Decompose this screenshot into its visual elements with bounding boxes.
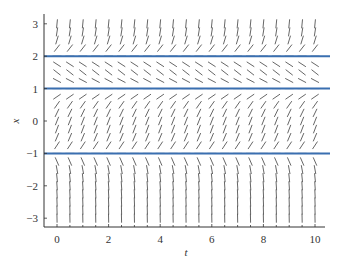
- slope-segment: [301, 36, 304, 45]
- slope-segment: [170, 70, 177, 76]
- slope-segment: [172, 27, 173, 36]
- slope-segment: [95, 27, 96, 36]
- slope-segment: [248, 101, 253, 108]
- slope-segment: [106, 142, 111, 150]
- slope-segment: [195, 62, 203, 67]
- slope-segment: [211, 27, 212, 36]
- slope-segment: [234, 62, 242, 67]
- slope-segment: [235, 101, 240, 108]
- slope-segment: [248, 45, 254, 52]
- slope-segment: [133, 133, 137, 141]
- slope-segment: [146, 157, 150, 165]
- slope-segment: [261, 45, 267, 52]
- slope-segment: [263, 27, 264, 36]
- slope-segment: [95, 181, 96, 190]
- slope-segment: [147, 181, 148, 190]
- slope-segment: [314, 165, 316, 174]
- slope-segment: [299, 70, 306, 76]
- slope-segment: [222, 142, 227, 150]
- slope-segment: [247, 78, 255, 82]
- y-tick-labels: 3210−1−2−3: [26, 18, 38, 224]
- slope-segment: [237, 181, 238, 190]
- slope-segment: [120, 157, 124, 165]
- slope-segment: [81, 36, 84, 45]
- slope-segment: [262, 36, 265, 45]
- slope-segment: [312, 45, 318, 52]
- slope-segment: [235, 45, 241, 52]
- slope-segment: [68, 133, 72, 141]
- slope-segment: [183, 45, 189, 52]
- slope-segment: [198, 19, 199, 28]
- slope-segment: [311, 94, 318, 99]
- slope-segment: [273, 94, 280, 99]
- slope-segment: [159, 36, 162, 45]
- slope-segment: [275, 133, 279, 141]
- y-tick-label: −2: [26, 180, 38, 192]
- slope-segment: [132, 109, 136, 117]
- slope-segment: [208, 94, 215, 99]
- slope-segment: [105, 70, 112, 76]
- slope-segment: [236, 133, 240, 141]
- slope-segment: [195, 94, 202, 99]
- slope-segment: [81, 117, 84, 125]
- slope-segment: [211, 173, 212, 182]
- slope-segment: [82, 19, 83, 28]
- slope-segment: [311, 62, 319, 67]
- slope-segment: [56, 36, 59, 45]
- slope-segment: [93, 45, 99, 52]
- y-tick-label: 1: [33, 83, 39, 95]
- slope-segment: [158, 142, 163, 150]
- slope-segment: [262, 157, 266, 165]
- slope-segment: [298, 94, 305, 99]
- slope-segment: [172, 36, 175, 45]
- slope-segment: [184, 109, 188, 117]
- slope-segment: [120, 117, 123, 125]
- slope-segment: [224, 173, 225, 182]
- slope-segment: [159, 165, 161, 174]
- slope-segment: [108, 19, 109, 28]
- slope-segment: [315, 19, 316, 28]
- slope-segment: [94, 36, 97, 45]
- slope-segment: [287, 157, 291, 165]
- slope-segment: [289, 173, 290, 182]
- slope-segment: [313, 125, 316, 133]
- slope-segment: [302, 181, 303, 190]
- slope-segment: [301, 165, 303, 174]
- slope-segment: [250, 165, 252, 174]
- slope-segment: [234, 78, 242, 82]
- slope-segment: [56, 165, 58, 174]
- slope-segment: [300, 101, 305, 108]
- x-tick-labels: 0246810: [54, 233, 321, 245]
- slope-segment: [260, 62, 268, 67]
- slope-segment: [55, 117, 58, 125]
- y-axis-label: x: [9, 118, 21, 124]
- slope-segment: [158, 109, 162, 117]
- slope-segment: [56, 27, 57, 36]
- slope-segment: [222, 101, 227, 108]
- slope-segment: [55, 142, 60, 150]
- slope-segment: [131, 94, 138, 99]
- slope-segment: [249, 125, 252, 133]
- slope-segment: [121, 27, 122, 36]
- slope-segment: [107, 36, 110, 45]
- y-tick-label: −1: [26, 147, 38, 159]
- slope-segment: [133, 36, 136, 45]
- slope-segment: [57, 181, 58, 190]
- slope-segment: [170, 45, 176, 52]
- slope-segment: [259, 78, 267, 82]
- slope-segment: [276, 173, 277, 182]
- slope-segment: [92, 62, 100, 67]
- slope-segment: [169, 94, 176, 99]
- slope-segment: [160, 19, 161, 28]
- slope-segment: [53, 70, 60, 76]
- slope-segment: [197, 157, 201, 165]
- slope-segment: [133, 117, 136, 125]
- slope-segment: [182, 62, 190, 67]
- y-tick-label: −3: [26, 212, 38, 224]
- slope-field-chart: 0246810 3210−1−2−3 t x: [0, 0, 342, 270]
- slope-segment: [119, 101, 124, 108]
- slope-segment: [145, 101, 150, 108]
- slope-segment: [210, 157, 214, 165]
- slope-segment: [158, 101, 163, 108]
- slope-segment: [108, 27, 109, 36]
